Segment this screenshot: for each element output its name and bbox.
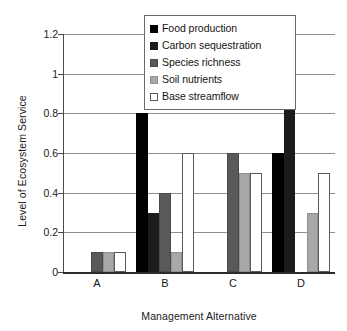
legend-item[interactable]: Species richness [150,54,290,71]
bar [227,153,239,272]
bar [171,252,183,272]
legend-item[interactable]: Food production [150,20,290,37]
legend-item[interactable]: Base streamflow [150,88,290,105]
x-tick-label-d: D [281,277,321,289]
y-axis-spine [63,34,64,273]
x-tick-label-b: B [145,277,185,289]
bar [91,252,103,272]
x-tick-label-a: A [77,277,117,289]
bar [318,173,330,272]
y-tick-label: 0.4 [18,187,58,199]
y-tick-label: 0.8 [18,107,58,119]
chart-legend: Food productionCarbon sequestrationSpeci… [144,15,296,110]
bar [239,173,251,272]
bar [307,213,319,273]
bar [272,153,284,272]
legend-label: Base streamflow [162,88,239,105]
y-tick-label: 0.2 [18,226,58,238]
y-tick-label: 1.2 [18,28,58,40]
chart-figure: Level of Ecosystem Service Management Al… [0,0,347,331]
bar [284,94,296,273]
x-tick-label-c: C [213,277,253,289]
x-axis-spine [63,272,335,274]
legend-swatch-icon [150,93,158,101]
legend-label: Food production [162,20,237,37]
x-axis-title: Management Alternative [63,310,335,322]
bar [250,173,262,272]
bar [114,252,126,272]
legend-swatch-icon [150,59,158,67]
bar [159,193,171,272]
legend-item[interactable]: Carbon sequestration [150,37,290,54]
y-tick-label: 1 [18,68,58,80]
legend-label: Soil nutrients [162,71,222,88]
bar-group-a [68,34,126,272]
y-axis-tick-labels: 00.20.40.60.811.2 [14,34,58,273]
bar [103,252,115,272]
legend-swatch-icon [150,76,158,84]
legend-label: Species richness [162,54,241,71]
legend-item[interactable]: Soil nutrients [150,71,290,88]
bar [136,113,148,272]
legend-swatch-icon [150,42,158,50]
x-axis-tick-labels: ABCD [63,277,335,295]
legend-swatch-icon [150,25,158,33]
y-tick-label: 0 [18,266,58,278]
bar [182,153,194,272]
y-tick-label: 0.6 [18,147,58,159]
legend-label: Carbon sequestration [162,37,261,54]
bar [148,213,160,273]
